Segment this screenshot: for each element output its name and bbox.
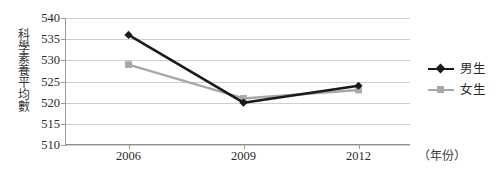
legend-label: 男生	[454, 62, 486, 75]
legend-item[interactable]: 男生	[428, 58, 500, 79]
chart-legend: 男生女生	[428, 58, 500, 100]
x-tick-label: 2012	[324, 150, 394, 163]
y-tick-label: 510	[26, 139, 60, 152]
y-tick-label: 520	[26, 97, 60, 110]
y-tick-label: 535	[26, 33, 60, 46]
series-line-1	[129, 65, 359, 99]
y-tick-mark	[61, 145, 66, 146]
series-plot	[65, 18, 410, 145]
x-axis-title: （年份）	[418, 150, 466, 163]
y-tick-label: 515	[26, 118, 60, 131]
science-literacy-line-chart: 科學素養平均數 540535530525520515510 2006200920…	[0, 0, 503, 189]
legend-item[interactable]: 女生	[428, 79, 500, 100]
plot-area	[65, 18, 410, 145]
diamond-marker-icon	[428, 63, 454, 75]
y-axis-tick-labels: 540535530525520515510	[26, 0, 60, 189]
data-point-square-marker	[125, 61, 132, 68]
x-tick-label: 2006	[94, 150, 164, 163]
y-tick-label: 525	[26, 76, 60, 89]
y-axis-title: 科學素養平均數	[6, 28, 28, 112]
x-tick-label: 2009	[209, 150, 279, 163]
legend-label: 女生	[454, 83, 486, 96]
square-marker-icon	[428, 84, 454, 96]
y-tick-label: 540	[26, 12, 60, 25]
y-tick-label: 530	[26, 54, 60, 67]
